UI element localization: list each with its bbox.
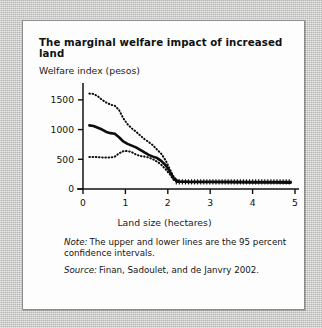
confidence-interval-line xyxy=(89,94,178,181)
x-tick-label: 1 xyxy=(122,197,128,208)
figure-title: The marginal welfare impact of increased… xyxy=(39,37,289,59)
source-text: Finan, Sadoulet, and de Janvry 2002. xyxy=(97,265,259,275)
x-tick-label: 3 xyxy=(207,197,213,208)
note-row: Note:The upper and lower lines are the 9… xyxy=(37,237,295,260)
figure-notes: Note:The upper and lower lines are the 9… xyxy=(37,237,295,281)
line-chart: 050010001500012345 xyxy=(29,79,301,211)
y-tick-label: 1000 xyxy=(51,124,75,135)
note-text: The upper and lower lines are the 95 per… xyxy=(64,237,286,258)
confidence-interval-line xyxy=(89,151,178,182)
y-tick-label: 500 xyxy=(56,154,74,165)
source-row: Source:Finan, Sadoulet, and de Janvry 20… xyxy=(37,265,295,276)
plot-area: 050010001500012345 xyxy=(29,79,301,211)
y-tick-label: 1500 xyxy=(51,94,75,105)
y-tick-label: 0 xyxy=(68,183,74,194)
x-axis-title: Land size (hectares) xyxy=(23,217,305,228)
y-axis-title: Welfare index (pesos) xyxy=(39,65,140,76)
note-label: Note: xyxy=(64,237,88,247)
source-label: Source: xyxy=(64,265,97,275)
estimate-line xyxy=(89,125,290,182)
figure-panel: The marginal welfare impact of increased… xyxy=(22,20,305,310)
x-tick-label: 5 xyxy=(292,197,298,208)
x-tick-label: 0 xyxy=(80,197,86,208)
x-tick-label: 4 xyxy=(250,197,256,208)
flat-tail-markers xyxy=(176,179,291,184)
x-tick-label: 2 xyxy=(165,197,171,208)
